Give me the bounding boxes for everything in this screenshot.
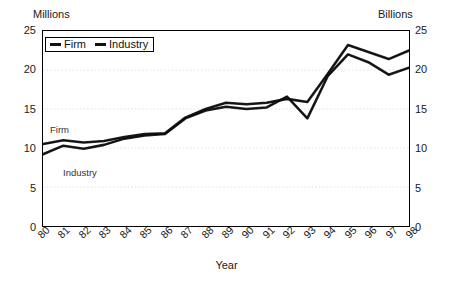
legend-item-firm: Firm [50, 39, 86, 50]
y-axis-tick-right-20: 20 [415, 63, 437, 75]
left-axis-unit-label: Millions [33, 8, 70, 20]
y-axis-tick-left-5: 5 [14, 182, 36, 194]
y-axis-tick-left-15: 15 [14, 103, 36, 115]
series-annotation-industry: Industry [63, 167, 97, 178]
y-axis-tick-left-25: 25 [14, 24, 36, 36]
legend-swatch-firm [50, 43, 61, 46]
y-axis-tick-left-0: 0 [14, 221, 36, 233]
legend-label-firm: Firm [64, 39, 86, 50]
y-axis-tick-left-10: 10 [14, 142, 36, 154]
y-axis-tick-right-15: 15 [415, 103, 437, 115]
plot-area [42, 30, 410, 227]
legend-item-industry: Industry [95, 39, 148, 50]
x-axis-title: Year [0, 259, 453, 271]
series-annotation-firm: Firm [50, 124, 69, 135]
y-axis-tick-right-5: 5 [415, 182, 437, 194]
legend: Firm Industry [45, 37, 154, 52]
series-lines [43, 31, 409, 226]
legend-label-industry: Industry [109, 39, 148, 50]
legend-swatch-industry [95, 43, 106, 46]
y-axis-tick-right-25: 25 [415, 24, 437, 36]
chart-container: Millions Billions 2520151050 2520151050 … [0, 0, 453, 289]
right-axis-unit-label: Billions [378, 8, 413, 20]
y-axis-tick-left-20: 20 [14, 63, 36, 75]
y-axis-tick-right-10: 10 [415, 142, 437, 154]
